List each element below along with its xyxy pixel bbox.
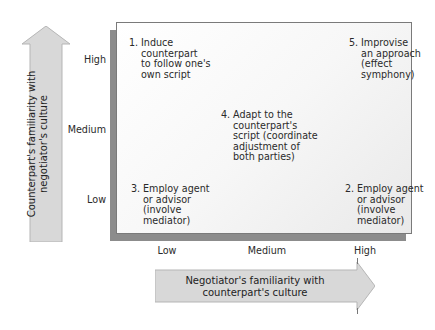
item-text: Adapt to the counterpart's script (coord… (233, 110, 318, 163)
y-axis-label-line2: negotiator's culture (38, 54, 50, 234)
item-text: Employ agent or advisor (involve mediato… (143, 184, 209, 226)
y-tick-medium: Medium (56, 124, 106, 135)
item-number: 1. (129, 38, 138, 49)
high-tick-mark-top (357, 258, 358, 264)
item-number: 2. (345, 184, 354, 195)
x-axis-label: Negotiator's familiarity with counterpar… (155, 275, 355, 299)
x-axis-label-line2: counterpart's culture (155, 287, 355, 299)
item-text: Induce counterpart to follow one's own s… (141, 38, 211, 80)
item-text: Employ agent or advisor (involve mediato… (357, 184, 423, 226)
x-tick-low: Low (137, 245, 197, 256)
y-axis-label-line1: Counterpart's familiarity with (26, 54, 38, 234)
y-tick-high: High (56, 54, 106, 65)
item-text: Improvise an approach (effect symphony) (361, 38, 421, 80)
x-tick-high: High (335, 245, 395, 256)
item-number: 4. (221, 110, 230, 121)
x-tick-medium: Medium (237, 245, 297, 256)
y-tick-low: Low (56, 194, 106, 205)
x-axis-label-line1: Negotiator's familiarity with (155, 275, 355, 287)
item-number: 3. (131, 184, 140, 195)
strategy-matrix-panel: 1. Induce counterpart to follow one's ow… (116, 22, 412, 234)
high-tick-mark-bottom (357, 308, 358, 314)
item-number: 5. (349, 38, 358, 49)
